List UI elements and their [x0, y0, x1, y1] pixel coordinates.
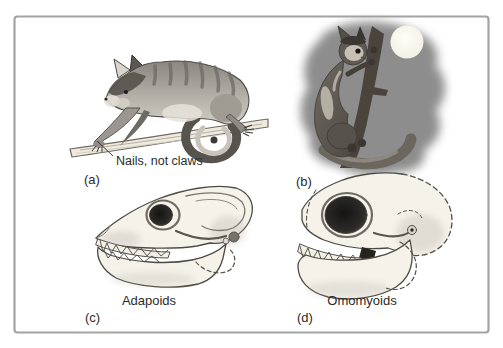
panel-a-tag: (a) — [84, 172, 100, 187]
nails-annotation: Nails, not claws — [116, 154, 203, 168]
panel-d-tag: (d) — [297, 310, 313, 325]
figure-canvas: Nails, not claws (a) — [0, 0, 503, 348]
moon — [391, 26, 424, 59]
figure-svg: Nails, not claws (a) — [0, 0, 503, 348]
omomyoids-caption: Omomyoids — [327, 293, 397, 308]
panel-b-tag: (b) — [296, 174, 312, 189]
panel-c-tag: (c) — [85, 310, 100, 325]
adapoids-caption: Adapoids — [122, 293, 177, 308]
